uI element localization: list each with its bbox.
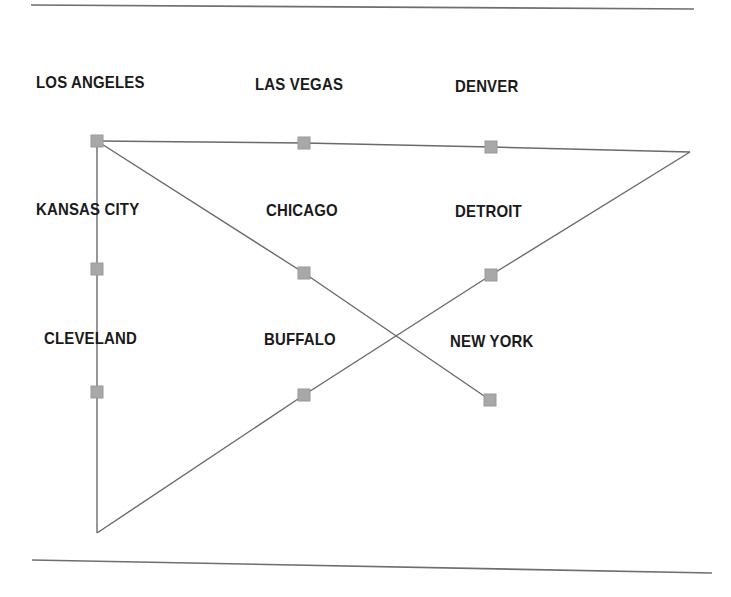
marker-buffalo[interactable] <box>298 389 310 401</box>
label-las-vegas: LAS VEGAS <box>255 76 343 93</box>
connection-lines <box>97 141 690 533</box>
edge-ascending-diagonal <box>97 152 690 533</box>
figure-page: LOS ANGELESLAS VEGASDENVERKANSAS CITYCHI… <box>0 0 731 597</box>
label-cleveland: CLEVELAND <box>44 330 137 347</box>
marker-las-vegas[interactable] <box>298 137 310 149</box>
edge-descending-diagonal <box>97 141 490 400</box>
label-new-york: NEW YORK <box>450 333 533 350</box>
label-kansas-city: KANSAS CITY <box>36 201 139 218</box>
marker-chicago[interactable] <box>298 267 310 279</box>
edge-top-polyline <box>97 141 690 152</box>
label-chicago: CHICAGO <box>266 202 338 219</box>
marker-new-york[interactable] <box>484 394 496 406</box>
label-buffalo: BUFFALO <box>264 331 336 348</box>
marker-kansas-city[interactable] <box>91 263 103 275</box>
bottom-rule <box>32 560 712 573</box>
label-los-angeles: LOS ANGELES <box>36 74 145 91</box>
label-detroit: DETROIT <box>455 203 522 220</box>
label-denver: DENVER <box>455 78 518 95</box>
marker-detroit[interactable] <box>485 269 497 281</box>
marker-los-angeles[interactable] <box>91 135 103 147</box>
marker-denver[interactable] <box>485 141 497 153</box>
marker-cleveland[interactable] <box>91 386 103 398</box>
top-rule <box>31 5 694 9</box>
